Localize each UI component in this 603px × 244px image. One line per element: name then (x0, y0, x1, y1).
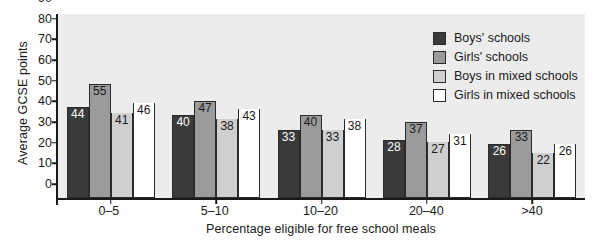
bar-value-label: 38 (345, 119, 365, 135)
legend-swatch-icon (433, 51, 446, 64)
y-axis-tickmark (52, 121, 56, 123)
bar[interactable]: 47 (194, 101, 216, 198)
bar[interactable]: 46 (133, 103, 155, 198)
bar[interactable]: 22 (532, 153, 554, 198)
legend-item[interactable]: Girls in mixed schools (433, 87, 603, 103)
y-axis-tickmark (52, 18, 56, 20)
bar-value-label: 44 (68, 107, 88, 123)
y-axis-tickmark (52, 80, 56, 82)
y-axis-tick-30: 30 (0, 115, 58, 129)
legend-label: Boys in mixed schools (454, 69, 578, 83)
bar-value-label: 37 (406, 122, 426, 138)
y-axis-tickmark (52, 142, 56, 144)
chart-legend: Boys' schoolsGirls' schoolsBoys in mixed… (433, 30, 603, 103)
legend-item[interactable]: Boys in mixed schools (433, 68, 603, 84)
x-axis-title: Percentage eligible for free school meal… (56, 222, 586, 236)
y-axis-tickmark (52, 101, 56, 103)
bar[interactable]: 27 (427, 142, 449, 198)
bar-value-label: 43 (239, 109, 259, 125)
x-axis-tick-label: 10–20 (303, 204, 338, 218)
bar-group: 40473843 (163, 14, 268, 198)
x-axis-tick-label: 5–10 (201, 204, 229, 218)
bar[interactable]: 33 (510, 130, 532, 198)
bar[interactable]: 33 (278, 130, 300, 198)
bar-value-label: 38 (217, 119, 237, 135)
y-axis-tick-70: 70 (0, 32, 58, 46)
y-axis-tickmark (52, 183, 56, 185)
bar[interactable]: 38 (216, 119, 238, 198)
y-axis-tickmark (52, 59, 56, 61)
plot-area: 0102030405060708090 44554146404738433340… (56, 14, 585, 200)
legend-swatch-icon (433, 89, 446, 102)
bar-group: 33403338 (269, 14, 374, 198)
y-axis-tick-90: 90 (0, 0, 58, 5)
y-axis-tick-60: 60 (0, 53, 58, 67)
bar[interactable]: 55 (89, 84, 111, 198)
bar[interactable]: 26 (554, 144, 576, 198)
bar-value-label: 46 (134, 103, 154, 119)
bar[interactable]: 33 (322, 130, 344, 198)
bar[interactable]: 28 (383, 140, 405, 198)
legend-item[interactable]: Boys' schools (433, 30, 603, 46)
bar-value-label: 55 (90, 84, 110, 100)
bar-value-label: 40 (301, 115, 321, 131)
bar[interactable]: 43 (238, 109, 260, 198)
y-axis-tick-80: 80 (0, 12, 58, 26)
y-axis-tick-40: 40 (0, 94, 58, 108)
legend-label: Girls' schools (454, 50, 528, 64)
legend-item[interactable]: Girls' schools (433, 49, 603, 65)
x-axis-tick-label: 20–40 (409, 204, 444, 218)
bar-group: 44554146 (58, 14, 163, 198)
bar[interactable]: 44 (67, 107, 89, 198)
bar-value-label: 33 (323, 130, 343, 146)
legend-swatch-icon (433, 70, 446, 83)
bar[interactable]: 31 (449, 134, 471, 198)
bar[interactable]: 26 (488, 144, 510, 198)
y-axis-tickmark (52, 163, 56, 165)
bar[interactable]: 37 (405, 122, 427, 198)
bar-value-label: 33 (279, 130, 299, 146)
y-axis-tick-20: 20 (0, 136, 58, 150)
bar[interactable]: 40 (172, 115, 194, 198)
bar[interactable]: 38 (344, 119, 366, 198)
bar-value-label: 41 (112, 113, 132, 129)
y-axis-tick-0: 0 (0, 177, 58, 191)
bar-value-label: 28 (384, 140, 404, 156)
bar-value-label: 22 (533, 153, 553, 169)
bar-value-label: 27 (428, 142, 448, 158)
x-axis-tick-label: 0–5 (98, 204, 119, 218)
bar-value-label: 26 (489, 144, 509, 160)
y-axis-tick-50: 50 (0, 74, 58, 88)
y-axis-tick-10: 10 (0, 156, 58, 170)
legend-label: Boys' schools (454, 31, 530, 45)
x-axis-tick-label: >40 (521, 204, 542, 218)
legend-swatch-icon (433, 32, 446, 45)
bar-value-label: 40 (173, 115, 193, 131)
x-axis-origin-tick (56, 200, 58, 205)
bar-value-label: 31 (450, 134, 470, 150)
bar[interactable]: 40 (300, 115, 322, 198)
bar-value-label: 33 (511, 130, 531, 146)
chart-figure: Average GCSE points 0102030405060708090 … (0, 0, 603, 244)
legend-label: Girls in mixed schools (454, 88, 576, 102)
y-axis-tickmark (52, 39, 56, 41)
bar[interactable]: 41 (111, 113, 133, 198)
bar-value-label: 47 (195, 101, 215, 117)
bar-value-label: 26 (555, 144, 575, 160)
